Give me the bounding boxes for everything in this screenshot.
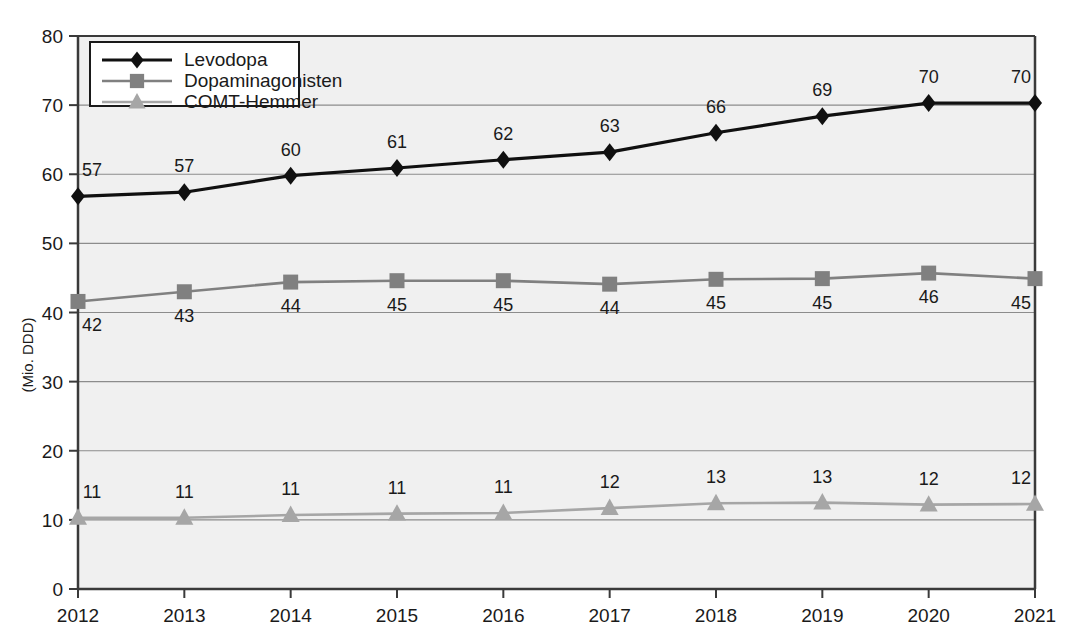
data-label: 44 — [600, 298, 620, 318]
data-label: 42 — [82, 315, 102, 335]
marker-square — [390, 273, 405, 288]
data-label: 13 — [812, 467, 832, 487]
y-axis-title: (Mio. DDD) — [19, 318, 36, 393]
data-label: 69 — [812, 80, 832, 100]
data-label: 12 — [600, 472, 620, 492]
x-tick-label: 2012 — [57, 605, 99, 626]
x-tick-label: 2016 — [482, 605, 524, 626]
data-label: 70 — [1011, 67, 1031, 87]
y-tick-label: 70 — [42, 95, 63, 116]
data-label: 45 — [1011, 293, 1031, 313]
marker-square — [709, 272, 724, 287]
x-tick-label: 2013 — [163, 605, 205, 626]
marker-square — [71, 294, 86, 309]
x-tick-label: 2021 — [1014, 605, 1056, 626]
data-label: 45 — [493, 295, 513, 315]
data-label: 11 — [281, 479, 300, 499]
data-label: 63 — [600, 116, 620, 136]
data-label: 12 — [1011, 468, 1031, 488]
y-tick-label: 40 — [42, 303, 63, 324]
chart-container: 01020304050607080 2012201320142015201620… — [0, 0, 1079, 644]
data-label: 11 — [175, 482, 194, 502]
data-label: 45 — [812, 293, 832, 313]
data-label: 12 — [919, 469, 939, 489]
data-label: 61 — [387, 132, 407, 152]
y-tick-label: 20 — [42, 441, 63, 462]
data-label: 57 — [174, 156, 194, 176]
data-label: 57 — [82, 160, 102, 180]
y-axis-tick-labels: 01020304050607080 — [42, 26, 63, 600]
data-label: 46 — [919, 287, 939, 307]
marker-square — [815, 271, 830, 286]
y-tick-label: 10 — [42, 510, 63, 531]
legend-item-label: COMT-Hemmer — [184, 91, 319, 112]
line-chart: 01020304050607080 2012201320142015201620… — [0, 0, 1079, 644]
data-label: 11 — [494, 477, 513, 497]
data-label: 45 — [387, 295, 407, 315]
legend-item-label: Dopaminagonisten — [184, 70, 342, 91]
x-tick-label: 2014 — [270, 605, 313, 626]
marker-square — [130, 74, 144, 88]
data-label: 66 — [706, 97, 726, 117]
data-label: 43 — [174, 306, 194, 326]
data-label: 13 — [706, 467, 726, 487]
marker-square — [1028, 271, 1043, 286]
y-tick-label: 30 — [42, 372, 63, 393]
x-tick-label: 2019 — [801, 605, 843, 626]
data-label: 11 — [388, 478, 407, 498]
data-label: 45 — [706, 293, 726, 313]
y-tick-label: 60 — [42, 164, 63, 185]
x-tick-label: 2020 — [908, 605, 950, 626]
marker-square — [177, 284, 192, 299]
x-tick-label: 2018 — [695, 605, 737, 626]
x-tick-label: 2017 — [589, 605, 631, 626]
x-tick-label: 2015 — [376, 605, 418, 626]
marker-square — [602, 277, 617, 292]
legend-item-label: Levodopa — [184, 49, 268, 70]
data-label: 11 — [83, 482, 102, 502]
marker-square — [921, 266, 936, 281]
data-label: 60 — [281, 140, 301, 160]
data-label: 62 — [493, 124, 513, 144]
marker-square — [496, 273, 511, 288]
data-label: 70 — [919, 67, 939, 87]
data-label: 44 — [281, 296, 301, 316]
marker-square — [283, 275, 298, 290]
y-tick-label: 0 — [52, 579, 63, 600]
y-tick-label: 80 — [42, 26, 63, 47]
y-tick-label: 50 — [42, 233, 63, 254]
